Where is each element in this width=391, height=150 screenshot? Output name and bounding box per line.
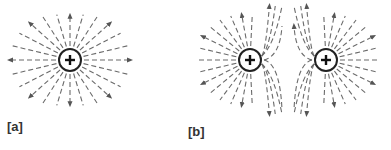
field-line [57,15,67,47]
field-line [324,74,326,104]
field-line [80,70,110,97]
field-line [74,74,84,106]
field-line [57,74,67,106]
field-line [324,16,326,46]
panel-a-single-charge [10,15,130,106]
field-line [329,74,335,105]
field-line [242,15,248,46]
field-line [198,63,237,72]
field-line [210,27,239,51]
positive-charge-icon [239,49,261,71]
field-line [251,74,253,104]
panel-a-label: [a] [7,119,23,134]
field-line [340,48,379,57]
field-line [30,23,60,50]
field-line [12,64,56,75]
field-line [210,69,239,93]
panel-b-label: [b] [188,124,205,139]
field-line [198,48,237,57]
positive-charge-icon [315,49,337,71]
field-line [242,74,248,105]
field-line [337,69,366,93]
field-line [80,23,110,50]
field-line [251,16,253,46]
field-line [329,15,335,46]
field-line [74,15,84,47]
panel-b-two-charges [196,6,380,114]
field-line [84,46,128,57]
field-line [337,27,366,51]
field-line [340,63,379,72]
field-line [30,70,60,97]
positive-charge-icon [59,49,81,71]
field-line [12,46,56,57]
field-line [84,64,128,75]
